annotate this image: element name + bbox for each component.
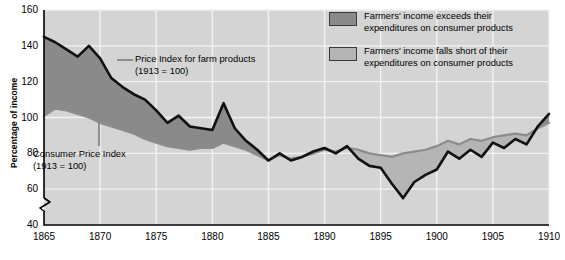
y-tick-label: 120	[8, 76, 38, 87]
annotation-farm-price-line1: Price Index for farm products	[135, 53, 255, 64]
annotation-consumer-price-line2: (1913 = 100)	[33, 160, 86, 171]
y-tick-label: 160	[8, 4, 38, 15]
y-tick-label: 40	[8, 219, 38, 230]
legend-exceeds-line2: expenditures on consumer products	[364, 22, 513, 33]
y-tick-label: 140	[8, 40, 38, 51]
x-tick-label: 1885	[245, 231, 291, 242]
y-tick-label: 100	[8, 112, 38, 123]
legend-label-exceeds: Farmers' income exceeds their expenditur…	[364, 10, 513, 33]
x-tick-label: 1890	[302, 231, 348, 242]
x-tick-label: 1875	[133, 231, 179, 242]
x-tick-label: 1880	[189, 231, 235, 242]
annotation-farm-price-line2: (1913 = 100)	[135, 65, 188, 76]
legend-exceeds-line1: Farmers' income exceeds their	[364, 10, 492, 21]
annotation-consumer-price: Consumer Price Index (1913 = 100)	[33, 148, 126, 171]
legend-short-line1: Farmers' income falls short of their	[364, 45, 508, 56]
x-tick-label: 1910	[526, 231, 565, 242]
band-income-short	[349, 129, 536, 198]
x-tick-label: 1870	[77, 231, 123, 242]
y-tick-label: 60	[8, 183, 38, 194]
x-tick-label: 1895	[358, 231, 404, 242]
annotation-farm-price: Price Index for farm products (1913 = 10…	[135, 53, 255, 76]
x-tick-label: 1900	[414, 231, 460, 242]
legend-label-short: Farmers' income falls short of their exp…	[364, 45, 513, 68]
x-tick-label: 1865	[21, 231, 67, 242]
x-tick-label: 1905	[470, 231, 516, 242]
axis-break-zigzag	[40, 198, 50, 212]
legend-swatch-exceeds	[329, 12, 357, 26]
annotation-consumer-price-line1: Consumer Price Index	[33, 148, 126, 159]
legend-short-line2: expenditures on consumer products	[364, 57, 513, 68]
legend-swatch-short	[329, 47, 357, 61]
